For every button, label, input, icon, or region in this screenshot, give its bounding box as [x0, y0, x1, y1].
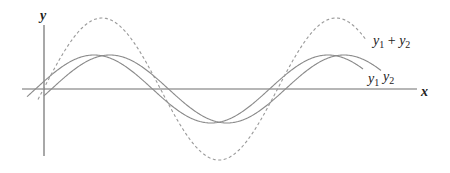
y-axis-label: y	[38, 8, 47, 23]
sum-curve-label: y1 + y2	[371, 33, 410, 50]
y1-curve-label: y1	[366, 71, 379, 88]
y2-curve-label: y2	[381, 69, 394, 86]
wave-superposition-diagram: y x y1 + y2 y1 y2	[0, 0, 450, 173]
x-axis-label: x	[420, 84, 428, 99]
